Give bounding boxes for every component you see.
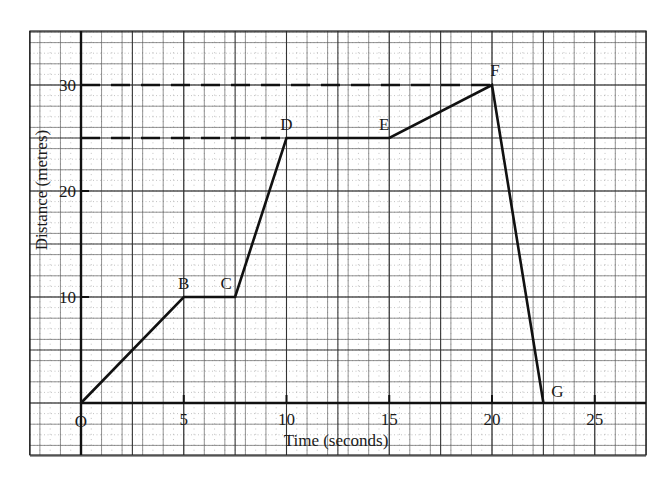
x-axis-title: Time (seconds)	[284, 431, 389, 450]
tick-labels: 510152025102030	[59, 76, 603, 429]
distance-time-graph: BCDEFG 510152025102030 O Time (seconds) …	[0, 0, 672, 483]
x-tick-label: 5	[180, 410, 189, 429]
point-label-g: G	[551, 382, 563, 401]
x-tick-label: 15	[381, 410, 398, 429]
point-label-f: F	[490, 61, 499, 80]
point-label-b: B	[178, 274, 189, 293]
y-tick-label: 20	[59, 182, 76, 201]
y-tick-label: 10	[59, 288, 76, 307]
origin-label: O	[75, 412, 87, 431]
point-label-d: D	[280, 115, 292, 134]
point-label-e: E	[379, 115, 389, 134]
y-axis-title: Distance (metres)	[32, 130, 51, 250]
point-label-c: C	[220, 274, 231, 293]
x-tick-label: 25	[586, 410, 603, 429]
x-tick-label: 20	[484, 410, 501, 429]
x-tick-label: 10	[278, 410, 295, 429]
y-tick-label: 30	[59, 76, 76, 95]
